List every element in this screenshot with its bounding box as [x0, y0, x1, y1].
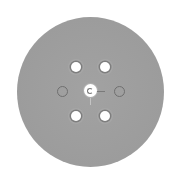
center-mark — [87, 88, 93, 94]
center-tick-line — [90, 98, 91, 105]
center-pointer-line — [97, 91, 105, 92]
hole-top-left — [71, 62, 81, 72]
hole-bottom-left — [71, 111, 81, 121]
hole-top-right — [100, 62, 110, 72]
hole-bottom-right — [100, 111, 110, 121]
ring-middle-right — [114, 86, 125, 97]
disc-image: Top-down view of a gray circular pad/dis… — [0, 0, 176, 187]
ring-middle-left — [57, 86, 68, 97]
